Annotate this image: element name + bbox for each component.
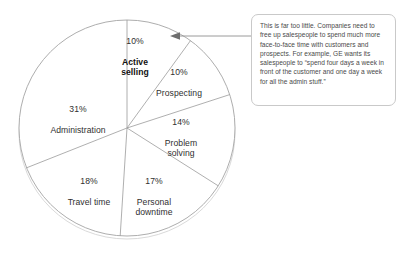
slice-label-personal-downtime: 17% Personal downtime xyxy=(118,165,190,229)
slice-label-administration: 31% Administration xyxy=(28,93,128,146)
slice-label-problem-solving: 14% Problem solving xyxy=(152,106,210,170)
slice-percent-personal-downtime: 17% xyxy=(118,176,190,187)
slice-label-travel-time: 18% Travel time xyxy=(52,165,126,218)
slice-name-personal-downtime: Personal downtime xyxy=(118,197,190,218)
slice-name-travel-time: Travel time xyxy=(52,197,126,208)
slice-label-prospecting: 10% Prospecting xyxy=(144,56,214,109)
slice-percent-travel-time: 18% xyxy=(52,176,126,187)
slice-name-prospecting: Prospecting xyxy=(144,88,214,99)
slice-name-administration: Administration xyxy=(28,125,128,136)
slice-name-problem-solving: Problem solving xyxy=(152,138,210,159)
slice-percent-problem-solving: 14% xyxy=(152,117,210,128)
slice-percent-active-selling: 10% xyxy=(104,36,166,47)
slice-percent-prospecting: 10% xyxy=(144,67,214,78)
annotation-callout-box: This is far too little. Companies need t… xyxy=(251,14,396,106)
slice-percent-administration: 31% xyxy=(28,104,128,115)
pie-chart-figure: 10% Active selling 10% Prospecting 14% P… xyxy=(0,0,408,266)
annotation-callout-text: This is far too little. Companies need t… xyxy=(260,21,388,86)
